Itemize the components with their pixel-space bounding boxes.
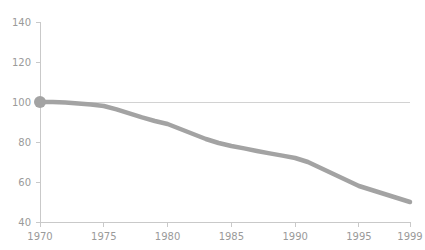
y-axis-label-80: 80 bbox=[18, 137, 31, 148]
x-axis-labels: 1970 1975 1980 1985 1990 1995 1999 bbox=[27, 231, 422, 242]
chart-container: 140 120 100 80 60 40 1970 1975 1980 1985… bbox=[0, 0, 425, 250]
line-chart: 140 120 100 80 60 40 1970 1975 1980 1985… bbox=[0, 0, 425, 250]
x-axis-ticks bbox=[40, 222, 410, 227]
y-axis-label-120: 120 bbox=[12, 57, 31, 68]
y-axis-label-100: 100 bbox=[12, 97, 31, 108]
y-axis-labels: 140 120 100 80 60 40 bbox=[12, 17, 31, 228]
x-axis-label-1990: 1990 bbox=[282, 231, 307, 242]
x-axis-label-1985: 1985 bbox=[219, 231, 244, 242]
y-axis-label-140: 140 bbox=[12, 17, 31, 28]
chart-axes bbox=[40, 22, 410, 222]
x-axis-label-1999: 1999 bbox=[397, 231, 422, 242]
x-axis-label-1975: 1975 bbox=[91, 231, 116, 242]
y-axis-ticks bbox=[36, 22, 40, 222]
data-series-line bbox=[40, 102, 410, 202]
y-axis-label-60: 60 bbox=[18, 177, 31, 188]
start-point-marker bbox=[34, 96, 46, 108]
x-axis-label-1980: 1980 bbox=[155, 231, 180, 242]
y-axis-label-40: 40 bbox=[18, 217, 31, 228]
x-axis-label-1970: 1970 bbox=[27, 231, 52, 242]
x-axis-label-1995: 1995 bbox=[346, 231, 371, 242]
